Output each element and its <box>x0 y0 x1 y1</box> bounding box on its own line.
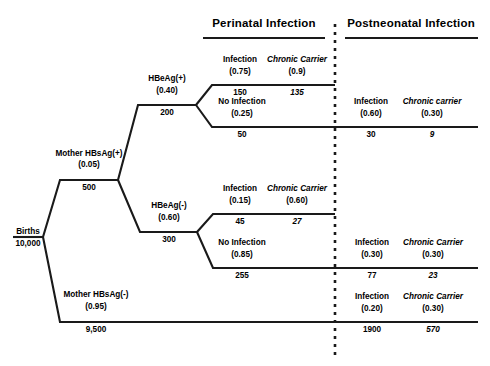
node-mother-hbsag-positive-label: Mother HBsAg(+) <box>55 150 122 159</box>
node-perinatal-3-carrier-label: Chronic Carrier <box>267 185 327 194</box>
node-perinatal-2-noinfection-count: 50 <box>237 131 246 140</box>
node-perinatal-2-noinfection-prob: (0.25) <box>231 110 252 119</box>
node-postneonatal-5-infection-prob: (0.20) <box>361 305 382 314</box>
node-postneonatal-4-infection-count: 77 <box>367 272 376 281</box>
node-perinatal-1-infection-prob: (0.75) <box>229 68 250 77</box>
branch-hbeag-positive <box>118 105 196 180</box>
node-postneonatal-2-carrier-label: Chronic carrier <box>403 98 462 107</box>
node-mother-hbsag-positive-count: 500 <box>82 184 96 193</box>
node-mother-hbsag-positive-prob: (0.05) <box>78 161 99 170</box>
node-postneonatal-5-carrier-label: Chronic Carrier <box>403 293 463 302</box>
node-postneonatal-2-carrier-count: 9 <box>430 131 435 140</box>
node-postneonatal-5-infection-count: 1900 <box>363 326 381 335</box>
node-postneonatal-4-carrier-count: 23 <box>428 272 437 281</box>
node-postneonatal-5-carrier-prob: (0.30) <box>422 305 443 314</box>
node-postneonatal-2-carrier-prob: (0.30) <box>421 110 442 119</box>
node-perinatal-3-infection-label: Infection <box>223 185 257 194</box>
node-mother-hbsag-negative-count: 9,500 <box>86 326 107 335</box>
header-perinatal-infection: Perinatal Infection <box>212 17 316 29</box>
node-perinatal-4-noinfection-prob: (0.85) <box>231 251 252 260</box>
node-hbeag-negative-prob: (0.60) <box>158 214 179 223</box>
node-perinatal-1-carrier-prob: (0.9) <box>289 68 306 77</box>
branch-perinatal-infection-2 <box>197 214 335 232</box>
node-births-count: 10,000 <box>15 240 40 249</box>
node-hbeag-positive-label: HBeAg(+) <box>148 75 186 84</box>
node-postneonatal-4-carrier-label: Chronic Carrier <box>403 239 463 248</box>
node-births-label: Births <box>16 228 40 237</box>
node-perinatal-3-carrier-count: 27 <box>292 218 301 227</box>
node-perinatal-1-carrier-count: 135 <box>290 89 304 98</box>
node-perinatal-3-carrier-prob: (0.60) <box>286 197 307 206</box>
node-hbeag-negative-label: HBeAg(-) <box>151 202 186 211</box>
node-mother-hbsag-negative-prob: (0.95) <box>85 303 106 312</box>
node-postneonatal-4-infection-label: Infection <box>355 239 389 248</box>
node-hbeag-positive-prob: (0.40) <box>156 87 177 96</box>
node-perinatal-3-infection-count: 45 <box>235 218 244 227</box>
node-perinatal-1-carrier-label: Chronic Carrier <box>267 56 327 65</box>
node-perinatal-2-noinfection-label: No Infection <box>218 98 265 107</box>
header-postneonatal-infection: Postneonatal Infection <box>347 17 475 29</box>
node-perinatal-1-infection-label: Infection <box>223 56 257 65</box>
node-postneonatal-2-infection-label: Infection <box>354 98 388 107</box>
node-hbeag-negative-count: 300 <box>162 236 176 245</box>
node-postneonatal-2-infection-prob: (0.60) <box>360 110 381 119</box>
node-perinatal-3-infection-prob: (0.15) <box>229 197 250 206</box>
node-perinatal-4-noinfection-label: No Infection <box>218 239 265 248</box>
node-postneonatal-4-infection-prob: (0.30) <box>361 251 382 260</box>
branch-mother-negative <box>43 237 478 322</box>
node-mother-hbsag-negative-label: Mother HBsAg(-) <box>63 291 128 300</box>
node-perinatal-4-noinfection-count: 255 <box>235 272 249 281</box>
branch-mother-positive <box>43 180 118 237</box>
node-hbeag-positive-count: 200 <box>160 109 174 118</box>
decision-tree-figure: Perinatal Infection Postneonatal Infecti… <box>0 0 490 366</box>
node-postneonatal-2-infection-count: 30 <box>366 131 375 140</box>
node-postneonatal-5-infection-label: Infection <box>355 293 389 302</box>
node-postneonatal-5-carrier-count: 570 <box>426 326 440 335</box>
node-postneonatal-4-carrier-prob: (0.30) <box>422 251 443 260</box>
